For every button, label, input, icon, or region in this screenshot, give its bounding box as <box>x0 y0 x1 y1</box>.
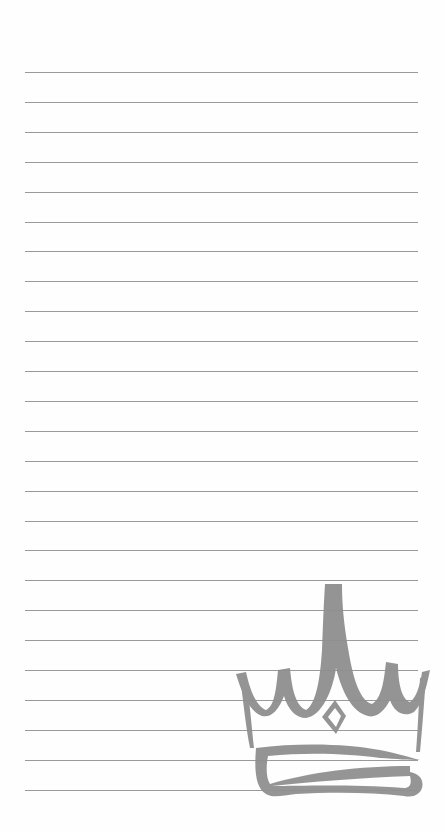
crown-icon <box>230 575 430 810</box>
ruled-line <box>25 222 418 223</box>
ruled-line <box>25 371 418 372</box>
ruled-line <box>25 401 418 402</box>
ruled-line <box>25 72 418 73</box>
ruled-line <box>25 550 418 551</box>
ruled-line <box>25 311 418 312</box>
ruled-line <box>25 461 418 462</box>
ruled-line <box>25 491 418 492</box>
notepad-page <box>0 0 444 833</box>
ruled-line <box>25 132 418 133</box>
ruled-line <box>25 431 418 432</box>
ruled-line <box>25 281 418 282</box>
ruled-line <box>25 341 418 342</box>
ruled-line <box>25 162 418 163</box>
ruled-line <box>25 251 418 252</box>
ruled-line <box>25 192 418 193</box>
ruled-line <box>25 102 418 103</box>
ruled-line <box>25 521 418 522</box>
